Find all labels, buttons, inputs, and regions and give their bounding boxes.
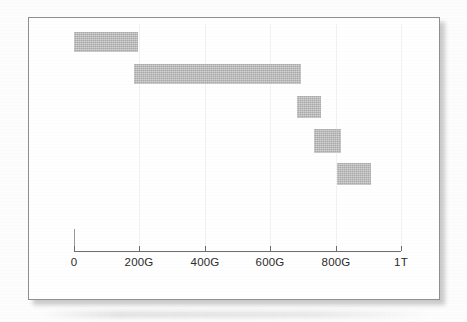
scan-smudge bbox=[40, 311, 430, 318]
figure-frame: 0200G400G600G800G1T bbox=[28, 17, 440, 300]
scanned-page-background: 0200G400G600G800G1T bbox=[0, 0, 467, 322]
x-axis-tick bbox=[270, 246, 271, 251]
plot-area: 0200G400G600G800G1T bbox=[29, 18, 439, 299]
origin-stub-mark bbox=[74, 229, 75, 247]
x-axis-tick-label: 800G bbox=[322, 256, 351, 268]
x-axis-tick bbox=[74, 246, 75, 251]
range-bar bbox=[337, 163, 371, 185]
gridline bbox=[270, 24, 271, 251]
x-axis-tick-label: 200G bbox=[125, 256, 154, 268]
x-axis-tick-label: 1T bbox=[394, 256, 408, 268]
range-bar bbox=[74, 32, 138, 52]
x-axis-tick bbox=[401, 246, 402, 251]
gridline bbox=[139, 24, 140, 251]
x-axis-tick bbox=[336, 246, 337, 251]
x-axis-tick-label: 600G bbox=[256, 256, 285, 268]
gridline bbox=[205, 24, 206, 251]
range-bar bbox=[134, 64, 301, 84]
gridline bbox=[401, 24, 402, 251]
x-axis-tick bbox=[139, 246, 140, 251]
range-bar bbox=[297, 96, 321, 118]
range-bar bbox=[314, 129, 341, 153]
x-axis-tick-label: 0 bbox=[71, 256, 78, 268]
x-axis-tick bbox=[205, 246, 206, 251]
x-axis-line bbox=[74, 251, 401, 252]
x-axis-tick-label: 400G bbox=[191, 256, 220, 268]
